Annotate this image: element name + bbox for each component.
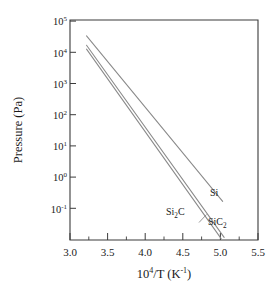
ytick-exp-1: 0 [64,171,68,179]
chart-svg: 10-1 100 101 102 103 104 105 3.0 3.5 4.0… [0,0,272,292]
ytick-exp-4: 3 [64,78,68,86]
x-axis-title-end: ) [187,267,191,281]
chart-figure: 10-1 100 101 102 103 104 105 3.0 3.5 4.0… [0,0,272,292]
xtick-label-4: 5.0 [214,246,228,258]
ytick-exp-5: 4 [64,47,68,55]
xtick-label-0: 3.0 [63,246,77,258]
y-axis-title: Pressure (Pa) [11,97,25,163]
sic2-subscript: 2 [223,222,227,230]
ytick-exp-2: 1 [64,140,68,148]
ytick-exp-6: 5 [64,15,68,23]
ytick-exp-3: 2 [64,109,68,117]
chart-background [0,0,272,292]
xtick-label-3: 4.5 [176,246,190,258]
curve-label-si: Si [210,187,219,198]
x-axis-title-main: 10 [137,267,150,281]
xtick-label-1: 3.5 [101,246,115,258]
x-axis-title-mid: /T (K [153,267,180,281]
ytick-exp-0: -1 [61,203,67,211]
xtick-label-5: 5.5 [251,246,265,258]
x-axis-title-sup2: -1 [180,266,187,275]
xtick-label-2: 4.0 [138,246,152,258]
